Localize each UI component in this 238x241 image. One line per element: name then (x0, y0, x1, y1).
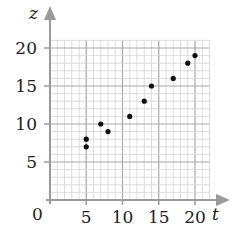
y-axis-label: z (28, 3, 39, 23)
x-axis-label: t (212, 204, 219, 224)
data-point (192, 53, 197, 58)
data-point (105, 129, 110, 134)
x-tick-label: 5 (81, 207, 92, 227)
x-tick-label: 10 (112, 207, 134, 227)
y-tick-label: 5 (26, 152, 37, 172)
data-point (149, 83, 154, 88)
tick-labels: 51015205101520 (15, 38, 205, 227)
scatter-chart: 51015205101520 z t 0 (0, 0, 238, 241)
origin-label: 0 (32, 204, 43, 224)
y-tick-label: 10 (15, 114, 37, 134)
x-tick-label: 15 (148, 207, 170, 227)
data-point (84, 144, 89, 149)
data-point (84, 137, 89, 142)
data-point (185, 61, 190, 66)
data-point (98, 121, 103, 126)
data-point (171, 76, 176, 81)
x-tick-label: 20 (184, 207, 206, 227)
y-tick-label: 20 (15, 38, 37, 58)
y-axis-arrow-icon (44, 6, 56, 20)
y-tick-label: 15 (15, 76, 37, 96)
data-point (142, 99, 147, 104)
data-point (127, 114, 132, 119)
